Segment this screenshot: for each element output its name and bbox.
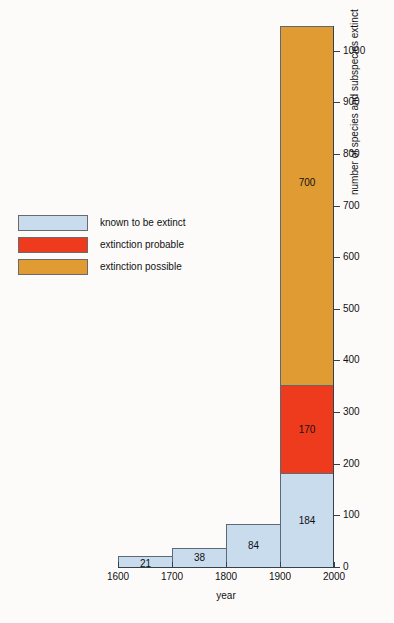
y-tick-label-100: 100: [343, 510, 360, 520]
x-tick-label-2000: 2000: [314, 571, 354, 582]
bar-value-1900-known-extinct: 184: [280, 515, 334, 526]
x-tick-label-1800: 1800: [206, 571, 246, 582]
plot-area: 21 38 84 184 170 700 0 100 200 300 400 5…: [0, 0, 394, 623]
y-tick-label-500: 500: [343, 304, 360, 314]
x-tick-mark-1900: [280, 562, 281, 568]
y-tick-mark-300: [334, 412, 340, 413]
y-axis-line: [333, 26, 334, 568]
y-tick-label-200: 200: [343, 459, 360, 469]
y-tick-label-300: 300: [343, 407, 360, 417]
x-tick-mark-1800: [226, 562, 227, 568]
bar-value-1800-known-extinct: 84: [226, 540, 281, 551]
y-tick-mark-600: [334, 257, 340, 258]
x-tick-mark-1600: [118, 562, 119, 568]
x-axis-title: year: [196, 590, 256, 601]
y-tick-mark-900: [334, 102, 340, 103]
y-tick-mark-500: [334, 309, 340, 310]
x-tick-label-1700: 1700: [152, 571, 192, 582]
y-tick-mark-400: [334, 360, 340, 361]
y-tick-mark-100: [334, 515, 340, 516]
y-tick-label-700: 700: [343, 201, 360, 211]
bar-value-1700-known-extinct: 38: [172, 552, 227, 563]
y-tick-label-600: 600: [343, 252, 360, 262]
y-tick-label-400: 400: [343, 355, 360, 365]
y-tick-mark-700: [334, 206, 340, 207]
x-tick-label-1600: 1600: [98, 571, 138, 582]
extinction-bar-chart: known to be extinct extinction probable …: [0, 0, 394, 623]
y-tick-mark-200: [334, 464, 340, 465]
bar-1900-extinction-possible: [280, 26, 334, 386]
y-axis-title: number of species and subspecies extinct: [349, 0, 360, 195]
x-tick-mark-1700: [172, 562, 173, 568]
x-tick-mark-2000: [334, 562, 335, 568]
x-tick-label-1900: 1900: [260, 571, 300, 582]
y-tick-mark-800: [334, 154, 340, 155]
bar-value-1900-extinction-possible: 700: [280, 177, 334, 188]
bar-value-1900-extinction-probable: 170: [280, 424, 334, 435]
y-tick-mark-1000: [334, 51, 340, 52]
